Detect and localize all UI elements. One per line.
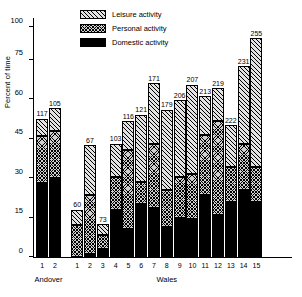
bar-segment-leisure[interactable] <box>161 110 173 190</box>
x-axis-tick-label: 1 <box>40 262 44 269</box>
x-axis-tick-label: 5 <box>126 262 130 269</box>
bar-segment-personal[interactable] <box>36 136 48 183</box>
bar-segment-leisure[interactable] <box>84 145 96 195</box>
bar-segment-personal[interactable] <box>161 190 173 227</box>
legend-swatch-domestic-icon <box>80 38 106 47</box>
bar[interactable]: 255 <box>250 38 262 257</box>
bar-segment-personal[interactable] <box>238 144 250 190</box>
bar-segment-personal[interactable] <box>212 121 224 214</box>
x-axis-tick-label: 4 <box>114 262 118 269</box>
bar-segment-leisure[interactable] <box>174 100 186 176</box>
bar-segment-domestic[interactable] <box>110 210 122 257</box>
bar-segment-leisure[interactable] <box>110 144 122 177</box>
bar-value-label: 60 <box>73 201 81 208</box>
bar-segment-personal[interactable] <box>225 167 237 201</box>
bar[interactable]: 213 <box>199 96 211 257</box>
legend-label: Leisure activity <box>112 11 162 19</box>
x-axis-tick-label: 10 <box>188 262 196 269</box>
bar-segment-personal[interactable] <box>199 135 211 196</box>
bar[interactable]: 73 <box>97 224 109 257</box>
bar-segment-leisure[interactable] <box>36 119 48 136</box>
x-axis-tick-label: 13 <box>227 262 235 269</box>
bar[interactable]: 207 <box>186 85 198 257</box>
bar-segment-domestic[interactable] <box>186 219 198 257</box>
bar-segment-personal[interactable] <box>71 225 83 257</box>
bar-segment-leisure[interactable] <box>212 88 224 121</box>
bar-segment-personal[interactable] <box>122 150 134 229</box>
bar[interactable]: 60 <box>71 210 83 257</box>
bar-segment-personal[interactable] <box>135 182 147 204</box>
bar-segment-domestic[interactable] <box>199 195 211 257</box>
legend-item-leisure[interactable]: Leisure activity <box>80 9 168 20</box>
bar-segment-domestic[interactable] <box>97 249 109 257</box>
bar-segment-domestic[interactable] <box>161 227 173 257</box>
bar-segment-domestic[interactable] <box>225 202 237 257</box>
x-axis-tick-label: 11 <box>202 262 209 269</box>
bar-value-label: 219 <box>212 80 224 87</box>
bar-segment-leisure[interactable] <box>135 115 147 182</box>
bar-segment-personal[interactable] <box>84 195 96 254</box>
bar-segment-personal[interactable] <box>250 167 262 201</box>
bar-segment-personal[interactable] <box>110 177 122 210</box>
bar[interactable]: 179 <box>161 110 173 257</box>
bar-segment-domestic[interactable] <box>135 204 147 257</box>
bar-segment-personal[interactable] <box>49 131 61 178</box>
y-axis-tick-label: 100 <box>10 16 23 24</box>
legend-item-personal[interactable]: Personal activity <box>80 23 168 34</box>
bar-segment-leisure[interactable] <box>199 96 211 134</box>
y-axis-tick: 100 <box>29 26 34 27</box>
x-axis-tick-label: 8 <box>165 262 169 269</box>
bar[interactable]: 67 <box>84 145 96 257</box>
y-axis-tick-label: 60 <box>15 88 23 96</box>
bar-segment-leisure[interactable] <box>122 121 134 150</box>
bar-value-label: 121 <box>135 106 147 113</box>
bar[interactable]: 171 <box>148 83 160 257</box>
plot-area: 0153045607510011710560677310311612117117… <box>34 18 292 257</box>
bar-segment-domestic[interactable] <box>250 202 262 257</box>
bar-segment-personal[interactable] <box>148 144 160 209</box>
bar-segment-domestic[interactable] <box>49 178 61 257</box>
bar-segment-leisure[interactable] <box>148 83 160 144</box>
bar-segment-leisure[interactable] <box>49 108 61 130</box>
bar-segment-personal[interactable] <box>97 235 109 249</box>
bar-segment-domestic[interactable] <box>36 183 48 257</box>
bar-value-label: 103 <box>110 135 122 142</box>
bar[interactable]: 105 <box>49 108 61 257</box>
bar-value-label: 213 <box>199 88 211 95</box>
bar-segment-personal[interactable] <box>186 174 198 219</box>
bar-segment-leisure[interactable] <box>186 85 198 175</box>
bar-segment-domestic[interactable] <box>174 218 186 258</box>
y-axis-tick-label: 15 <box>15 207 23 215</box>
bar[interactable]: 222 <box>225 125 237 257</box>
bar[interactable]: 219 <box>212 88 224 257</box>
bar[interactable]: 206 <box>174 100 186 257</box>
bar-segment-domestic[interactable] <box>238 190 250 257</box>
bar[interactable]: 231 <box>238 66 250 257</box>
y-axis-title: Percent of time <box>3 56 12 108</box>
y-axis-tick: 45 <box>29 138 34 139</box>
bar[interactable]: 121 <box>135 115 147 257</box>
bar[interactable]: 117 <box>36 119 48 257</box>
bar-segment-domestic[interactable] <box>212 215 224 257</box>
bar-segment-leisure[interactable] <box>250 38 262 167</box>
chart-legend: Leisure activityPersonal activityDomesti… <box>80 9 168 51</box>
x-axis-tick-label: 2 <box>53 262 57 269</box>
bar-segment-leisure[interactable] <box>71 210 83 226</box>
bar-segment-personal[interactable] <box>174 177 186 218</box>
legend-item-domestic[interactable]: Domestic activity <box>80 37 168 48</box>
bar-segment-domestic[interactable] <box>122 229 134 257</box>
bar-segment-leisure[interactable] <box>225 125 237 167</box>
bar-value-label: 73 <box>99 216 107 223</box>
bar-segment-leisure[interactable] <box>97 224 109 235</box>
stacked-bar-chart: Percent of time 015304560751001171056067… <box>0 0 302 297</box>
bar[interactable]: 103 <box>110 144 122 257</box>
x-axis-tick-label: 15 <box>252 262 260 269</box>
x-axis-tick-label: 12 <box>214 262 222 269</box>
bar-value-label: 116 <box>123 113 134 120</box>
y-axis-tick-label: 45 <box>15 128 23 136</box>
bar-segment-domestic[interactable] <box>148 208 160 257</box>
bar[interactable]: 116 <box>122 121 134 257</box>
bar-value-label: 206 <box>174 92 186 99</box>
bar-segment-domestic[interactable] <box>84 254 96 257</box>
bar-segment-leisure[interactable] <box>238 66 250 144</box>
